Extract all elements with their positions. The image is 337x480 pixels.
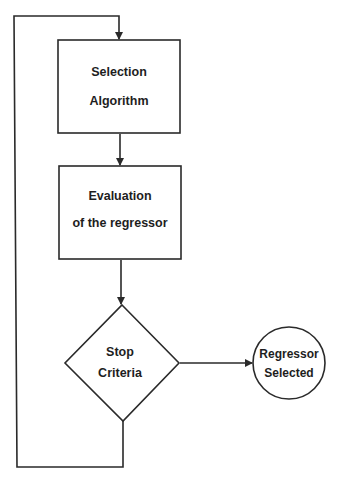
regressor-selected-node: Regressor Selected: [253, 327, 325, 399]
selection-algorithm-box: [58, 40, 180, 133]
stop-label-line2: Criteria: [98, 366, 143, 380]
evaluation-box: [59, 166, 181, 259]
stop-label-line1: Stop: [106, 345, 134, 359]
selection-label-line2: Algorithm: [89, 94, 148, 108]
selected-label-line2: Selected: [264, 366, 313, 380]
selected-label-line1: Regressor: [259, 347, 319, 361]
selection-label-line1: Selection: [91, 65, 147, 79]
evaluation-label-line2: of the regressor: [72, 216, 167, 230]
selection-algorithm-node: Selection Algorithm: [58, 40, 180, 133]
flowchart-canvas: Selection Algorithm Evaluation of the re…: [0, 0, 337, 480]
evaluation-label-line1: Evaluation: [88, 189, 151, 203]
evaluation-node: Evaluation of the regressor: [59, 166, 181, 259]
stop-criteria-node: Stop Criteria: [65, 305, 179, 421]
regressor-selected-circle: [253, 327, 325, 399]
stop-criteria-diamond: [65, 305, 179, 421]
